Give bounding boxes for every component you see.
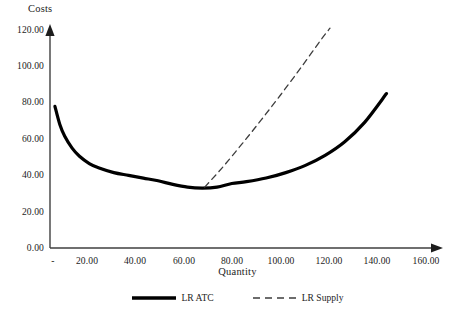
- y-tick-label: 20.00: [0, 206, 44, 217]
- chart-container: Costs 120.00 100.00 80.00 60.00 40.00 20…: [0, 0, 475, 312]
- legend-label: LR Supply: [302, 292, 344, 303]
- x-tick-label: 160.00: [396, 255, 456, 266]
- legend-swatch-dashed-icon: [252, 293, 298, 303]
- y-tick-label: 100.00: [0, 60, 44, 71]
- y-axis: [45, 24, 54, 248]
- legend-swatch-solid-icon: [131, 293, 177, 303]
- y-tick-label: 80.00: [0, 96, 44, 107]
- legend-label: LR ATC: [181, 292, 213, 303]
- x-axis-title: Quantity: [0, 266, 475, 277]
- y-tick-label: 60.00: [0, 133, 44, 144]
- y-tick-label: 40.00: [0, 169, 44, 180]
- x-axis-arrow-icon: [431, 243, 443, 252]
- series-layer: [55, 28, 387, 188]
- legend-item-lr-supply[interactable]: LR Supply: [252, 292, 344, 303]
- chart-legend: LR ATC LR Supply: [0, 292, 475, 303]
- x-axis: [50, 243, 443, 252]
- y-axis-arrow-icon: [45, 24, 54, 36]
- y-tick-label: 0.00: [0, 242, 44, 253]
- series-line-lr-atc: [55, 94, 387, 188]
- y-tick-label: 120.00: [0, 24, 44, 35]
- legend-item-lr-atc[interactable]: LR ATC: [131, 292, 213, 303]
